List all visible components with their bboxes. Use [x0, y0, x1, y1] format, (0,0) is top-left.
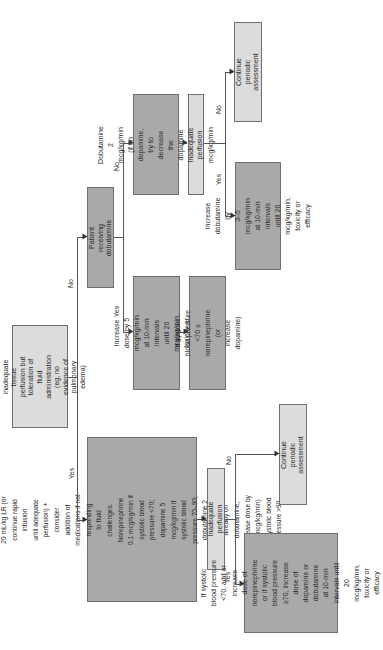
connector [225, 72, 226, 216]
branch-label-yes: Yes [215, 174, 222, 185]
connector [68, 377, 77, 378]
connector [77, 237, 78, 520]
branch-label-no: No [113, 162, 120, 171]
fluid-node-text: 20 mL/kg LR (or continue rapid infusion … [0, 493, 285, 547]
arrow-right-icon [129, 140, 134, 146]
branch-label-no: No [67, 279, 74, 288]
continue-assessment-top-node: Continue periodic assessment [234, 22, 262, 122]
systolic-mid-node: If systolic blood pressure <70 ± norepin… [189, 276, 226, 390]
connector [235, 454, 277, 455]
arrow-right-icon [230, 69, 235, 75]
inadequate-perfusion-bottom-node: Inadequate perfusion [207, 468, 225, 570]
arrow-right-icon [183, 140, 188, 146]
continue-assessment-top-text: Continue periodic assessment [235, 53, 261, 90]
connector [235, 454, 236, 584]
branch-label-yes: Yes [224, 572, 231, 583]
branch-label-yes: Yes [113, 306, 120, 317]
arrow-right-icon [83, 234, 88, 240]
branch-label-yes: Yes [68, 468, 75, 479]
continue-assessment-bottom-node: Continue periodic assessment [279, 404, 307, 505]
continue-assessment-bottom-text: Continue periodic assessment [280, 436, 306, 473]
branch-label-no: No [215, 105, 222, 114]
dobutamine-2-node: Dobutamine 2 mcg/kg/min (if on dopamine,… [133, 94, 179, 195]
connector [114, 237, 123, 238]
increase-dobutamine-text: Increase dobutamine by 3–5 mcg/kg/min at… [203, 197, 313, 235]
arrow-right-icon [231, 213, 236, 219]
inadequate-perfusion-top-text: Inadequate perfusion [187, 127, 204, 162]
connector [225, 519, 235, 520]
systolic-bottom-node: If systolic blood pressure <70, add or i… [244, 533, 338, 633]
increase-dobutamine-node: Increase dobutamine by 3–5 mcg/kg/min at… [235, 162, 281, 270]
arrow-right-icon [184, 329, 189, 335]
arrow-right-icon [129, 329, 134, 335]
patient-dobutamine-text: Patient receiving dobutamine [88, 219, 114, 256]
fluid-node: 20 mL/kg LR (or continue rapid infusion … [87, 437, 197, 602]
connector [204, 143, 225, 144]
arrow-right-icon [83, 517, 88, 523]
inadequate-perfusion-top-node: Inadequate perfusion [188, 94, 204, 195]
inadequate-perfusion-bottom-text: Inadequate perfusion [207, 501, 224, 536]
branch-label-no: No [225, 456, 232, 465]
patient-dobutamine-node: Patient receiving dobutamine [87, 187, 114, 288]
arrow-right-icon [240, 581, 245, 587]
arrow-right-icon [202, 516, 207, 522]
start-node: Continued inadequate tissue perfusion bu… [12, 325, 68, 428]
connector [123, 143, 124, 332]
arrow-right-icon [275, 451, 280, 457]
